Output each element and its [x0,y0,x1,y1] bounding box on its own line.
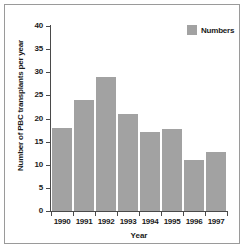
x-tick-label: 1994 [139,217,161,226]
y-tick-label: 0 [5,206,43,215]
y-tick-label: 25 [5,90,43,99]
x-tick-mark [95,212,96,216]
y-tick-mark [46,188,50,189]
x-tick-mark [161,212,162,216]
y-tick-label: 5 [5,183,43,192]
figure-frame: Numbers Number of PBC transplants per ye… [4,4,240,244]
y-tick-mark [46,211,50,212]
x-tick-label: 1990 [51,217,73,226]
x-tick-mark [51,212,52,216]
x-tick-mark [183,212,184,216]
x-tick-label: 1995 [161,217,183,226]
bar-1991 [73,100,95,211]
x-tick-mark [205,212,206,216]
x-tick-mark [73,212,74,216]
bar-1993 [117,114,139,211]
bar-1990 [51,128,73,211]
x-axis-title: Year [51,231,227,240]
x-tick-mark [117,212,118,216]
bar-1997 [205,152,227,211]
y-tick-mark [46,119,50,120]
y-tick-mark [46,72,50,73]
y-tick-mark [46,142,50,143]
y-tick-mark [46,165,50,166]
x-tick-label: 1996 [183,217,205,226]
x-tick-mark [139,212,140,216]
y-tick-mark [46,95,50,96]
y-tick-mark [46,49,50,50]
y-tick-label: 35 [5,44,43,53]
bar-1995 [161,129,183,211]
plot-area [51,26,227,211]
chart-screenshot: Numbers Number of PBC transplants per ye… [0,0,245,249]
x-tick-label: 1993 [117,217,139,226]
y-tick-label: 15 [5,137,43,146]
bar-1996 [183,160,205,211]
x-tick-label: 1997 [205,217,227,226]
y-tick-label: 30 [5,67,43,76]
y-tick-label: 10 [5,160,43,169]
x-tick-label: 1992 [95,217,117,226]
y-tick-label: 20 [5,114,43,123]
bar-1992 [95,77,117,211]
y-tick-label: 40 [5,21,43,30]
x-tick-label: 1991 [73,217,95,226]
x-tick-mark [227,212,228,216]
bar-1994 [139,132,161,211]
y-tick-mark [46,26,50,27]
